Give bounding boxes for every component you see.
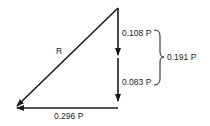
vector-0083p-label: 0.083 P (122, 78, 151, 87)
vector-0108p-label: 0.108 P (122, 29, 151, 38)
resultant-label: R (56, 47, 62, 56)
force-vector-diagram: R 0.108 P 0.083 P 0.296 P 0.191 P (0, 0, 210, 126)
brace-icon (154, 30, 164, 85)
vector-0296p-label: 0.296 P (54, 112, 83, 121)
brace-sum-label: 0.191 P (167, 53, 196, 62)
vector-triangle-svg (0, 0, 210, 126)
resultant-vector-r (17, 8, 118, 106)
